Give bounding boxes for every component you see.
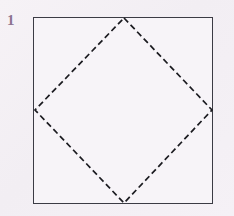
geometry-figure: 1 [0,0,234,216]
figure-canvas [0,0,234,216]
figure-number-label: 1 [7,13,15,28]
outer-square [34,18,213,204]
